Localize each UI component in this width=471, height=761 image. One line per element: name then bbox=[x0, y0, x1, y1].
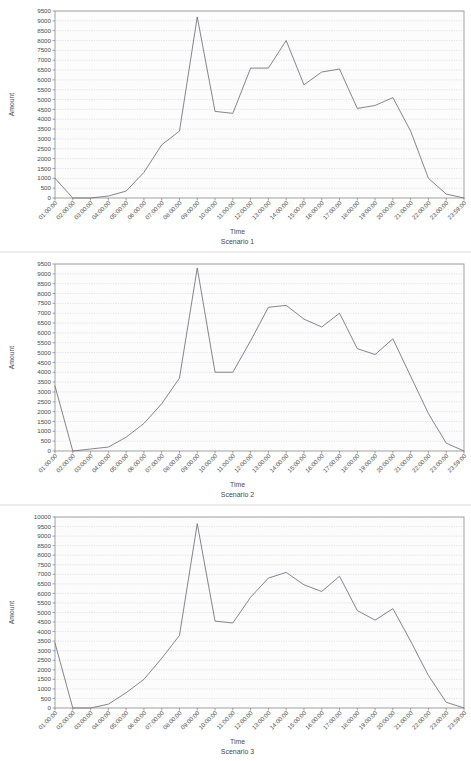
y-axis-tick-label: 9500 bbox=[37, 7, 51, 14]
y-axis-tick-label: 5500 bbox=[37, 339, 51, 346]
chart-block-scenario-2: 0500100015002000250030003500400045005000… bbox=[0, 253, 471, 506]
y-axis-tick-label: 3000 bbox=[37, 388, 51, 395]
y-axis-tick-label: 7000 bbox=[37, 309, 51, 316]
chart-caption: Scenario 2 bbox=[221, 491, 255, 498]
y-axis-tick-label: 5500 bbox=[37, 599, 51, 606]
x-axis-tick-label: 23:59:00 bbox=[447, 709, 468, 730]
y-axis-tick-label: 8500 bbox=[37, 27, 51, 34]
y-axis-tick-label: 6000 bbox=[37, 76, 51, 83]
y-axis-tick-label: 0 bbox=[48, 704, 52, 711]
y-axis-tick-label: 3000 bbox=[37, 647, 51, 654]
y-axis-tick-label: 4500 bbox=[37, 106, 51, 113]
y-axis-tick-label: 7500 bbox=[37, 299, 51, 306]
x-axis-tick-label: 10:00:00 bbox=[198, 709, 219, 730]
y-axis-tick-label: 1000 bbox=[37, 174, 51, 181]
y-axis-tick-label: 7500 bbox=[37, 561, 51, 568]
y-axis-tick-label: 5000 bbox=[37, 349, 51, 356]
y-axis-tick-label: 500 bbox=[41, 695, 52, 702]
y-axis-tick-label: 4500 bbox=[37, 359, 51, 366]
y-axis-tick-label: 7000 bbox=[37, 570, 51, 577]
x-axis-tick-label: 10:00:00 bbox=[198, 452, 219, 473]
y-axis-tick-label: 2000 bbox=[37, 155, 51, 162]
y-axis-tick-label: 9000 bbox=[37, 270, 51, 277]
chart-stack: 0500100015002000250030003500400045005000… bbox=[0, 0, 471, 761]
chart-block-scenario-1: 0500100015002000250030003500400045005000… bbox=[0, 0, 471, 253]
chart-block-scenario-3: 0500100015002000250030003500400045005000… bbox=[0, 506, 471, 761]
x-axis-title: Time bbox=[230, 481, 245, 488]
y-axis-tick-label: 7000 bbox=[37, 56, 51, 63]
y-axis-tick-label: 1500 bbox=[37, 418, 51, 425]
plot-area-frame bbox=[55, 264, 464, 451]
y-axis-tick-label: 3500 bbox=[37, 637, 51, 644]
x-axis-tick-label: 10:00:00 bbox=[198, 199, 219, 220]
y-axis-tick-label: 8000 bbox=[37, 37, 51, 44]
y-axis-tick-label: 0 bbox=[48, 194, 52, 201]
y-axis-tick-label: 1500 bbox=[37, 675, 51, 682]
y-axis-tick-label: 5000 bbox=[37, 96, 51, 103]
y-axis-tick-label: 4000 bbox=[37, 115, 51, 122]
y-axis-tick-label: 2000 bbox=[37, 408, 51, 415]
y-axis-tick-label: 9500 bbox=[37, 260, 51, 267]
y-axis-tick-label: 3000 bbox=[37, 135, 51, 142]
y-axis-tick-label: 0 bbox=[48, 447, 52, 454]
x-axis-tick-label: 23:59:00 bbox=[447, 452, 468, 473]
y-axis-tick-label: 6500 bbox=[37, 66, 51, 73]
y-axis-tick-label: 4000 bbox=[37, 368, 51, 375]
y-axis-tick-label: 5000 bbox=[37, 609, 51, 616]
y-axis-tick-label: 10000 bbox=[34, 513, 52, 520]
y-axis-tick-label: 4500 bbox=[37, 618, 51, 625]
y-axis-tick-label: 9000 bbox=[37, 17, 51, 24]
y-axis-tick-label: 500 bbox=[41, 184, 52, 191]
y-axis-tick-label: 1500 bbox=[37, 165, 51, 172]
y-axis-tick-label: 1000 bbox=[37, 427, 51, 434]
line-chart-scenario-1[interactable]: 0500100015002000250030003500400045005000… bbox=[0, 0, 471, 253]
y-axis-tick-label: 5500 bbox=[37, 86, 51, 93]
x-axis-title: Time bbox=[230, 228, 245, 235]
y-axis-tick-label: 6000 bbox=[37, 590, 51, 597]
y-axis-title: Amount bbox=[8, 93, 15, 117]
y-axis-tick-label: 2000 bbox=[37, 666, 51, 673]
chart-caption: Scenario 1 bbox=[221, 238, 255, 245]
y-axis-tick-label: 6500 bbox=[37, 580, 51, 587]
y-axis-tick-label: 500 bbox=[41, 437, 52, 444]
y-axis-tick-label: 2500 bbox=[37, 656, 51, 663]
y-axis-title: Amount bbox=[8, 346, 15, 370]
y-axis-tick-label: 3500 bbox=[37, 125, 51, 132]
chart-caption: Scenario 3 bbox=[221, 748, 255, 755]
plot-area-frame bbox=[55, 11, 464, 198]
y-axis-tick-label: 2500 bbox=[37, 398, 51, 405]
y-axis-tick-label: 3500 bbox=[37, 378, 51, 385]
y-axis-tick-label: 6500 bbox=[37, 319, 51, 326]
y-axis-title: Amount bbox=[8, 601, 15, 625]
y-axis-tick-label: 4000 bbox=[37, 628, 51, 635]
y-axis-tick-label: 8000 bbox=[37, 290, 51, 297]
y-axis-tick-label: 1000 bbox=[37, 685, 51, 692]
y-axis-tick-label: 2500 bbox=[37, 145, 51, 152]
x-axis-title: Time bbox=[230, 738, 245, 745]
y-axis-tick-label: 8000 bbox=[37, 551, 51, 558]
y-axis-tick-label: 7500 bbox=[37, 46, 51, 53]
y-axis-tick-label: 6000 bbox=[37, 329, 51, 336]
y-axis-tick-label: 9000 bbox=[37, 532, 51, 539]
y-axis-tick-label: 9500 bbox=[37, 523, 51, 530]
line-chart-scenario-3[interactable]: 0500100015002000250030003500400045005000… bbox=[0, 506, 471, 761]
x-axis-tick-label: 23:59:00 bbox=[447, 199, 468, 220]
y-axis-tick-label: 8500 bbox=[37, 542, 51, 549]
y-axis-tick-label: 8500 bbox=[37, 280, 51, 287]
line-chart-scenario-2[interactable]: 0500100015002000250030003500400045005000… bbox=[0, 253, 471, 506]
